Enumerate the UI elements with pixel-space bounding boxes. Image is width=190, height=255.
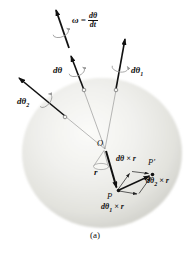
rotation-loop-icon	[53, 28, 70, 40]
dtheta-label: dθ	[53, 66, 62, 75]
dtheta1-base: dθ	[131, 65, 140, 75]
dtheta1-cross-r-post: × r	[112, 202, 124, 211]
dtheta2-cross-r-label: dθ2 × r	[146, 177, 169, 187]
dtheta1-label: dθ1	[131, 66, 143, 77]
dtheta2-label: dθ2	[17, 97, 29, 108]
figure-container: ω = dθ dt dθ dθ1 dθ2 O r P P′ dθ × r dθ2…	[0, 0, 190, 255]
omega-vector-arrow	[56, 10, 69, 48]
dtheta2-cross-r-post: × r	[157, 176, 169, 185]
axis-surface-point	[63, 115, 67, 119]
r-vector-label: r	[94, 168, 98, 177]
figure-caption: (a)	[0, 230, 190, 240]
sphere-diagram	[0, 0, 190, 255]
omega-fraction: dθ dt	[88, 12, 98, 29]
point-p-dot	[117, 189, 121, 193]
omega-denominator: dt	[90, 21, 96, 29]
omega-lhs: ω =	[72, 16, 86, 25]
dtheta2-subscript: 2	[26, 102, 29, 108]
dtheta2-cross-r-pre: dθ	[146, 176, 154, 185]
axis-surface-point	[114, 88, 118, 92]
dtheta1-cross-r-pre: dθ	[101, 202, 109, 211]
omega-equation-label: ω = dθ dt	[72, 12, 98, 29]
axis-surface-point	[82, 88, 86, 92]
dtheta1-subscript: 1	[140, 71, 143, 77]
point-p-prime-label: P′	[148, 158, 155, 167]
origin-label: O	[97, 139, 103, 148]
dtheta1-cross-r-label: dθ1 × r	[101, 203, 124, 213]
dtheta2-base: dθ	[17, 96, 26, 106]
point-p-label: P	[107, 192, 112, 201]
dtheta-cross-r-label: dθ × r	[116, 155, 136, 163]
